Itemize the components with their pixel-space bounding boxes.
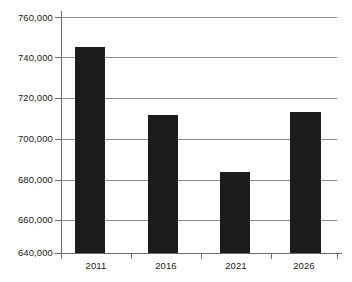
x-axis-tick-end <box>337 253 338 259</box>
bar-2016 <box>148 115 178 253</box>
x-axis-tick-2 <box>201 253 202 259</box>
plot-area <box>61 17 337 253</box>
y-axis-label-700000: 700,000 <box>1 134 53 144</box>
bar-2026 <box>290 112 321 253</box>
x-axis-label-2016: 2016 <box>131 261 201 271</box>
y-axis-label-760000: 760,000 <box>1 13 53 23</box>
x-axis-tick-1 <box>131 253 132 259</box>
bar-2011 <box>75 47 105 254</box>
x-axis-label-2026: 2026 <box>271 261 337 271</box>
x-axis-label-2021: 2021 <box>201 261 271 271</box>
gridline-baseline-640000 <box>61 253 337 254</box>
x-axis-tick-start <box>61 253 62 259</box>
gridline-760000 <box>61 17 337 18</box>
bar-2021 <box>220 172 250 253</box>
bar-chart: 760,000 740,000 720,000 700,000 680,000 … <box>0 0 352 282</box>
y-axis-label-720000: 720,000 <box>1 93 53 103</box>
y-axis-label-660000: 660,000 <box>1 215 53 225</box>
y-axis-label-640000: 640,000 <box>1 248 53 258</box>
x-axis-tick-3 <box>271 253 272 259</box>
x-axis-label-2011: 2011 <box>61 261 131 271</box>
y-axis-labels: 760,000 740,000 720,000 700,000 680,000 … <box>0 0 53 282</box>
y-axis-label-680000: 680,000 <box>1 175 53 185</box>
y-axis-label-740000: 740,000 <box>1 53 53 63</box>
